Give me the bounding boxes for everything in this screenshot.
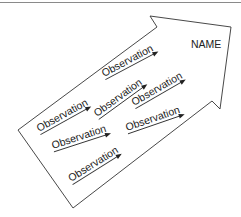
observation-list: ObservationObservationObservationObserva… (34, 40, 187, 187)
observation-item: Observation (50, 121, 112, 154)
observation-item: Observation (124, 102, 186, 136)
observation-label: Observation (34, 96, 89, 134)
observation-label: Observation (50, 122, 108, 151)
diagram-canvas: NAME ObservationObservationObservationOb… (0, 0, 241, 217)
arrow-diagram: NAME ObservationObservationObservationOb… (0, 0, 241, 217)
observation-item: Observation (66, 143, 123, 187)
arrow-label: NAME (191, 38, 221, 50)
observation-label: Observation (99, 42, 155, 79)
observation-item: Observation (99, 40, 159, 82)
